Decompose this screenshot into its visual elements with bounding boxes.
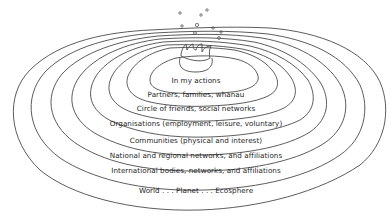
label-friends: Circle of friends, social networks [0, 104, 392, 113]
label-international: International bodies, networks, and affi… [0, 166, 392, 175]
droplet-icon [206, 9, 208, 11]
droplet-icon [200, 14, 202, 16]
splash-base [180, 58, 213, 72]
label-organisations: Organisations (employment, leisure, volu… [0, 119, 392, 128]
label-communities: Communities (physical and interest) [0, 136, 392, 145]
droplet-icon [194, 32, 197, 35]
label-in-my-actions: In my actions [0, 76, 392, 85]
label-national: National and regional networks, and affi… [0, 151, 392, 160]
ring-self [150, 56, 258, 94]
droplet-icon [181, 25, 183, 27]
ripple-diagram: In my actions Partners, families, whanau… [0, 0, 392, 218]
label-world: World . . . Planet . . . Ecosphere [0, 186, 392, 195]
splash-crown [181, 44, 211, 61]
droplet-icon [195, 23, 198, 26]
droplet-icon [220, 31, 222, 33]
label-partners: Partners, families, whanau [0, 90, 392, 99]
droplet-icon [179, 12, 181, 14]
